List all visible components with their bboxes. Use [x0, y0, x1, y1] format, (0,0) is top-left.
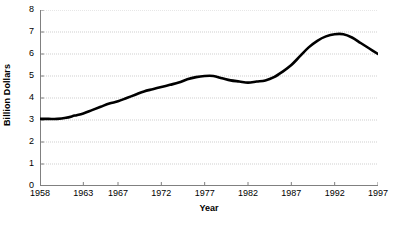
y-tick-label-7: 7 — [4, 27, 34, 36]
x-tick-label-1987: 1987 — [271, 189, 311, 198]
x-tick-label-1967: 1967 — [98, 189, 138, 198]
gridlines — [40, 10, 378, 164]
y-tick-label-8: 8 — [4, 5, 34, 14]
x-tick-label-1997: 1997 — [358, 189, 394, 198]
y-tick-label-6: 6 — [4, 49, 34, 58]
x-axis-title-text: Year — [199, 203, 218, 213]
plot-svg — [40, 10, 378, 186]
x-axis-title: Year — [40, 203, 378, 213]
y-tick-label-4: 4 — [4, 93, 34, 102]
line-chart: Billion Dollars 012345678 19581963196719… — [0, 0, 394, 226]
x-tick-label-1977: 1977 — [185, 189, 225, 198]
y-tick-label-1: 1 — [4, 159, 34, 168]
y-tick-label-3: 3 — [4, 115, 34, 124]
x-tick-label-1972: 1972 — [141, 189, 181, 198]
plot-area — [40, 10, 378, 186]
x-tick-label-1958: 1958 — [20, 189, 60, 198]
y-tick-label-5: 5 — [4, 71, 34, 80]
x-tick-label-1982: 1982 — [228, 189, 268, 198]
x-tick-label-1992: 1992 — [315, 189, 355, 198]
y-tick-label-2: 2 — [4, 137, 34, 146]
